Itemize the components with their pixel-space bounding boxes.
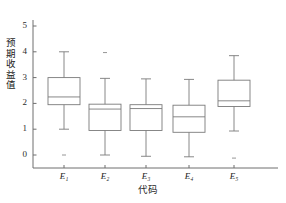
box-plot-E1 — [48, 52, 80, 155]
box-body-E4 — [173, 105, 205, 132]
x-tick-label-E5: E₅ — [219, 171, 249, 181]
x-tick-label-E1: E₁ — [49, 171, 79, 181]
x-tick-label-E3: E₃ — [131, 171, 161, 181]
x-tick-label-E4: E₄ — [174, 171, 204, 181]
y-tick-label-5: 5 — [13, 20, 27, 30]
axes-group — [33, 20, 278, 168]
box-plot-E3 — [130, 79, 162, 156]
box-plot-figure: 012345 E₁E₂E₃E₄E₅ 预期收益值 代码 — [0, 0, 286, 203]
x-axis-label: 代码 — [128, 182, 168, 196]
y-tick-label-2: 2 — [13, 97, 27, 107]
box-body-E1 — [48, 78, 80, 105]
y-tick-label-0: 0 — [13, 149, 27, 159]
y-tick-label-1: 1 — [13, 123, 27, 133]
y-axis-label: 预期收益值 — [4, 38, 18, 91]
box-body-E5 — [218, 80, 250, 106]
x-tick-label-E2: E₂ — [90, 171, 120, 181]
box-body-E2 — [89, 104, 121, 130]
box-plot-E4 — [173, 79, 205, 156]
box-plot-E2 — [89, 53, 121, 155]
box-plot-E5 — [218, 56, 250, 158]
boxes-group — [48, 52, 250, 158]
